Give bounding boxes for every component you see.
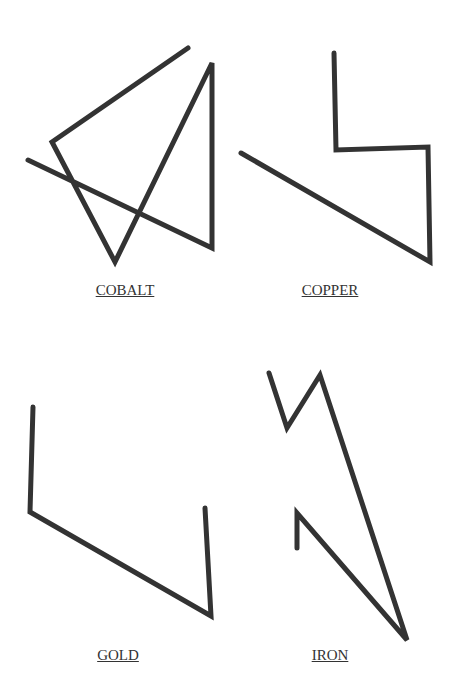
figures-canvas: [0, 0, 452, 693]
gold-label: GOLD: [97, 647, 139, 664]
copper-label: COPPER: [302, 282, 359, 299]
cobalt-label: COBALT: [96, 282, 155, 299]
iron-shape: [269, 373, 407, 640]
cobalt-shape: [28, 48, 212, 262]
gold-shape: [30, 407, 211, 616]
iron-label: IRON: [312, 647, 349, 664]
copper-shape: [241, 53, 430, 262]
